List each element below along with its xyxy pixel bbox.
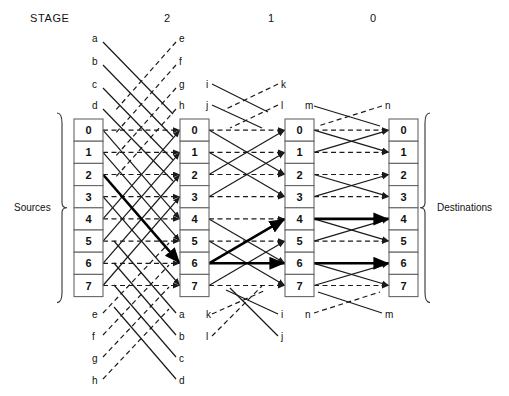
svg-text:6: 6 — [400, 257, 406, 269]
svg-text:3: 3 — [191, 191, 197, 203]
node-3-3: 3 — [389, 186, 418, 208]
svg-text:4: 4 — [296, 213, 303, 225]
svg-text:1: 1 — [191, 146, 197, 158]
node-2-7: 7 — [285, 274, 314, 296]
svg-text:0: 0 — [191, 124, 197, 136]
svg-text:6: 6 — [296, 257, 302, 269]
node-3-6: 6 — [389, 252, 418, 274]
svg-text:0: 0 — [400, 124, 406, 136]
network-diagram: STAGE 2 1 0 Sources Destinations a b c d… — [0, 0, 509, 396]
svg-text:3: 3 — [85, 191, 91, 203]
node-0-0: 0 — [74, 119, 103, 141]
node-2-3: 3 — [285, 186, 314, 208]
svg-text:7: 7 — [400, 280, 406, 292]
node-2-6: 6 — [285, 252, 314, 274]
svg-text:2: 2 — [296, 169, 302, 181]
svg-text:2: 2 — [191, 169, 197, 181]
svg-text:7: 7 — [296, 280, 302, 292]
node-0-5: 5 — [74, 230, 103, 252]
node-0-6: 6 — [74, 252, 103, 274]
svg-text:1: 1 — [296, 146, 302, 158]
svg-text:4: 4 — [85, 213, 92, 225]
node-1-4: 4 — [180, 208, 209, 230]
node-3-7: 7 — [389, 274, 418, 296]
svg-text:0: 0 — [85, 124, 91, 136]
node-2-1: 1 — [285, 141, 314, 163]
network-canvas: 01234567012345670123456701234567 — [0, 0, 509, 396]
svg-text:5: 5 — [191, 235, 197, 247]
svg-text:7: 7 — [85, 280, 91, 292]
node-1-2: 2 — [180, 163, 209, 185]
node-3-4: 4 — [389, 208, 418, 230]
svg-text:6: 6 — [191, 257, 197, 269]
node-1-7: 7 — [180, 274, 209, 296]
node-2-5: 5 — [285, 230, 314, 252]
svg-text:0: 0 — [296, 124, 302, 136]
svg-text:2: 2 — [400, 169, 406, 181]
node-0-1: 1 — [74, 141, 103, 163]
svg-text:6: 6 — [85, 257, 91, 269]
node-1-1: 1 — [180, 141, 209, 163]
node-3-0: 0 — [389, 119, 418, 141]
node-1-3: 3 — [180, 186, 209, 208]
node-3-5: 5 — [389, 230, 418, 252]
node-0-4: 4 — [74, 208, 103, 230]
node-0-3: 3 — [74, 186, 103, 208]
svg-text:3: 3 — [296, 191, 302, 203]
svg-text:4: 4 — [400, 213, 407, 225]
svg-text:5: 5 — [400, 235, 406, 247]
svg-text:1: 1 — [85, 146, 91, 158]
svg-text:4: 4 — [191, 213, 198, 225]
node-1-0: 0 — [180, 119, 209, 141]
svg-text:5: 5 — [296, 235, 302, 247]
svg-text:1: 1 — [400, 146, 406, 158]
node-2-0: 0 — [285, 119, 314, 141]
node-1-5: 5 — [180, 230, 209, 252]
svg-text:2: 2 — [85, 169, 91, 181]
node-0-7: 7 — [74, 274, 103, 296]
svg-text:5: 5 — [85, 235, 91, 247]
node-0-2: 2 — [74, 163, 103, 185]
node-3-1: 1 — [389, 141, 418, 163]
node-2-4: 4 — [285, 208, 314, 230]
svg-text:3: 3 — [400, 191, 406, 203]
svg-text:7: 7 — [191, 280, 197, 292]
node-1-6: 6 — [180, 252, 209, 274]
node-2-2: 2 — [285, 163, 314, 185]
node-3-2: 2 — [389, 163, 418, 185]
